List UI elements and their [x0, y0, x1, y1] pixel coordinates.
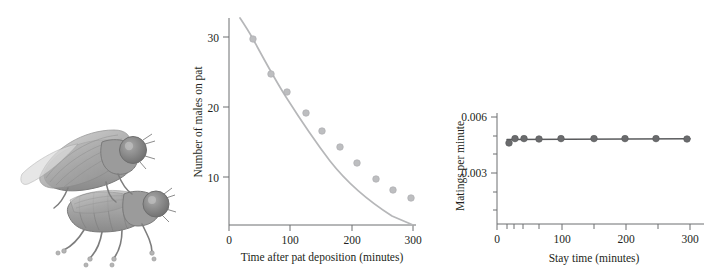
- ytick-20: 20: [208, 102, 220, 114]
- female-fly: [56, 188, 176, 267]
- chart2-data-points: [506, 135, 691, 146]
- chart2-regression-line: [507, 139, 690, 140]
- chart-matings-per-minute: 0.006 0.003 0 100 200 300: [448, 86, 716, 274]
- chart2-xtick-labels: 0 100 200 300: [494, 233, 699, 245]
- xtick-300: 300: [681, 233, 699, 245]
- chart2-ylabel: Matings per minute: [454, 121, 467, 211]
- xtick-200: 200: [343, 234, 361, 246]
- axes-chart2: [491, 113, 704, 230]
- figure-panel-group: 30 20 10 0 100 200 300: [0, 0, 716, 274]
- ytick-30: 30: [208, 32, 220, 44]
- xtick-100: 100: [281, 234, 299, 246]
- chart1-trend-curve: [240, 18, 413, 225]
- xtick-200: 200: [617, 233, 635, 245]
- xtick-300: 300: [404, 234, 422, 246]
- chart1-ytick-labels: 30 20 10: [208, 32, 220, 184]
- chart1-xtick-labels: 0 100 200 300: [226, 234, 422, 246]
- mating-flies-illustration: [6, 96, 182, 272]
- xtick-100: 100: [553, 233, 571, 245]
- axes-chart1: [223, 18, 416, 231]
- xtick-0: 0: [494, 233, 500, 245]
- chart2-xlabel: Stay time (minutes): [549, 252, 640, 265]
- ytick-10: 10: [208, 172, 220, 184]
- chart1-ylabel: Number of males on pat: [192, 66, 205, 178]
- xtick-0: 0: [226, 234, 232, 246]
- chart1-xlabel: Time after pat deposition (minutes): [241, 251, 404, 264]
- chart1-data-points: [250, 36, 415, 202]
- chart-males-on-pat: 30 20 10 0 100 200 300: [190, 6, 440, 274]
